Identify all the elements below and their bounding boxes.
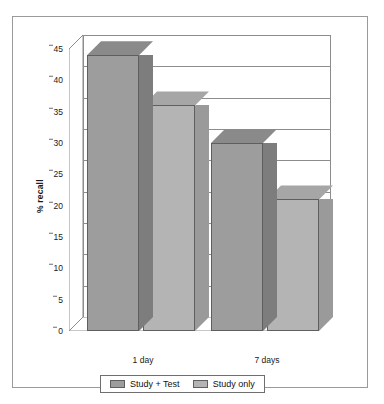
legend-swatch-study-test bbox=[110, 380, 125, 388]
bar-1-day-study-test bbox=[87, 41, 139, 331]
y-axis-tick-label: 45 bbox=[54, 45, 63, 54]
bar-side-face bbox=[195, 105, 209, 331]
y-axis-tick-mark bbox=[49, 264, 53, 265]
y-axis-tick-mark bbox=[49, 76, 53, 77]
y-axis-tick-label: 20 bbox=[54, 201, 63, 210]
y-axis-tick-label: 0 bbox=[58, 327, 63, 336]
chart-legend[interactable]: Study + Test Study only bbox=[100, 375, 265, 393]
legend-label: Study + Test bbox=[130, 379, 180, 389]
y-axis-tick-label: 30 bbox=[54, 139, 63, 148]
y-axis-tick-label: 10 bbox=[54, 264, 63, 273]
y-axis-tick-mark bbox=[49, 201, 53, 202]
y-axis-tick-mark bbox=[53, 327, 57, 328]
legend-item: Study + Test bbox=[110, 379, 180, 389]
bar-side-face bbox=[319, 199, 333, 331]
y-axis-tick-label: 25 bbox=[54, 170, 63, 179]
y-axis-tick-mark bbox=[49, 45, 53, 46]
bar-front-face bbox=[211, 143, 263, 331]
chart-frame: % recall 051015202530354045 1 day7 days … bbox=[12, 16, 368, 388]
y-axis-tick-mark bbox=[53, 295, 57, 296]
bar-7-days-study-test bbox=[211, 129, 263, 331]
bar-front-face bbox=[87, 55, 139, 331]
y-axis-tick-label: 5 bbox=[58, 295, 63, 304]
legend-label: Study only bbox=[213, 379, 255, 389]
y-axis-tick-label: 40 bbox=[54, 76, 63, 85]
y-axis-title: % recall bbox=[35, 179, 45, 213]
x-axis-tick-label: 1 day bbox=[133, 355, 154, 365]
y-axis-tick-mark bbox=[49, 107, 53, 108]
bar-side-face bbox=[263, 143, 277, 331]
y-axis-tick-mark bbox=[49, 139, 53, 140]
y-axis-tick-label: 35 bbox=[54, 107, 63, 116]
x-axis-tick-label: 7 days bbox=[254, 355, 279, 365]
bar-side-face bbox=[139, 55, 153, 331]
gridline bbox=[83, 35, 331, 36]
legend-item: Study only bbox=[193, 379, 255, 389]
plot-area: 051015202530354045 1 day7 days bbox=[69, 35, 331, 331]
y-axis-tick-mark bbox=[49, 170, 53, 171]
y-axis-tick-mark bbox=[49, 233, 53, 234]
y-axis-tick-label: 15 bbox=[54, 233, 63, 242]
legend-swatch-study-only bbox=[193, 380, 208, 388]
